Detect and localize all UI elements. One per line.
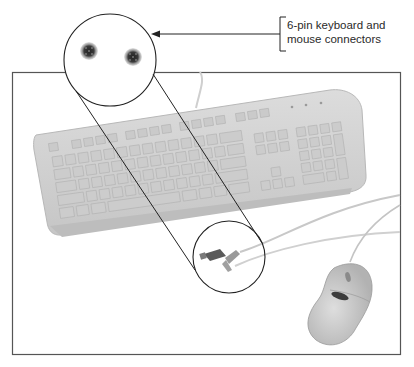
arrowhead-icon [151,31,160,38]
callout-bracket [280,17,286,51]
callout-label: 6-pin keyboard and mouse connectors [287,18,412,46]
callout-label-line1: 6-pin keyboard and [287,18,412,32]
magnifier-circle [64,14,156,106]
callout-label-line2: mouse connectors [287,32,412,46]
keyboard-mouse-diagram [0,0,414,367]
